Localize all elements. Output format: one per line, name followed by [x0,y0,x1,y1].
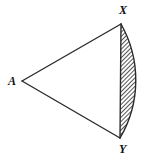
chord-XY [120,24,121,138]
triangle-AXY-region [22,24,121,138]
geometry-figure: A X Y [0,0,144,160]
vertex-label-x: X [119,4,127,16]
vertex-label-a: A [8,75,16,87]
figure-canvas [0,0,144,160]
vertex-label-y: Y [119,143,126,155]
